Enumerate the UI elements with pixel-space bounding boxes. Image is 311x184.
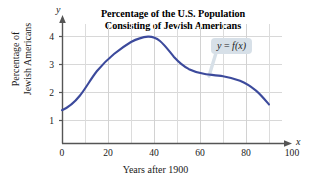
x-tick-label-0: 0 — [50, 147, 74, 158]
y-tick-label-4: 4 — [42, 31, 54, 42]
y-tick-label-1: 1 — [42, 115, 54, 126]
x-axis-letter: x — [296, 136, 300, 147]
chart-figure: Percentage of the U.S. Population Consis… — [0, 0, 311, 184]
x-axis-label: Years after 1900 — [0, 164, 311, 175]
function-annotation-callout: y = f(x) — [211, 38, 252, 54]
y-tick-label-3: 3 — [42, 59, 54, 70]
x-tick-label-80: 80 — [234, 147, 258, 158]
y-tick-label-2: 2 — [42, 87, 54, 98]
x-tick-label-40: 40 — [142, 147, 166, 158]
y-axis-label-line-2: Jewish Americans — [22, 7, 34, 111]
annotation-equals: = — [221, 40, 232, 51]
y-axis-label-line-1: Percentage of — [10, 7, 22, 111]
y-axis-label: Percentage of Jewish Americans — [10, 7, 34, 111]
x-tick-label-100: 100 — [280, 147, 304, 158]
x-tick-label-60: 60 — [188, 147, 212, 158]
axis-lines — [59, 15, 292, 147]
annotation-arg: (x) — [235, 40, 246, 51]
y-axis-letter: y — [56, 4, 60, 15]
x-tick-label-20: 20 — [96, 147, 120, 158]
